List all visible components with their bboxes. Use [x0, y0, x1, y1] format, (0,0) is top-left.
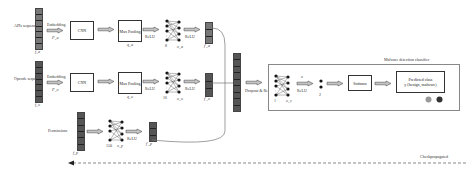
apis-dense-param: o_a [177, 44, 183, 49]
neural-net-icon [274, 74, 290, 97]
opcodes-relu2-label: ReLU [185, 86, 195, 91]
apis-input-vector [35, 8, 43, 50]
softmax-box: Softmax [348, 75, 372, 91]
apis-embedding-label: Embedding [47, 22, 65, 27]
apis-maxpool-box: Max Pooling [118, 20, 142, 42]
output-nodes-icon [319, 79, 323, 91]
opcodes-embedding-label: Embedding [47, 74, 65, 79]
neural-net-icon [165, 19, 181, 42]
permissions-input-label: Permissions [48, 128, 67, 133]
classifier-frame: 1 o_c z ReLU 2 Softmax Predicted class y… [268, 64, 460, 111]
arrow-icon [143, 79, 160, 85]
opcodes-dense-param: o_o [177, 96, 183, 101]
permissions-output-label: f'_p [146, 141, 152, 146]
opcodes-pool-param: q_o [127, 94, 133, 99]
permissions-dense-n: 150 [106, 143, 112, 148]
predicted-class-line2: y (benign, malware) [404, 82, 436, 87]
opcodes-input-vector [35, 61, 43, 103]
arrow-icon [47, 28, 64, 34]
classifier-title: Malware detection classifier [384, 57, 429, 62]
backprop-label: Checkpropagated [420, 154, 448, 159]
arrow-icon [375, 81, 392, 87]
concatenated-vector [233, 53, 241, 112]
apis-relu1-label: ReLU [145, 34, 155, 39]
opcodes-vector-label: f_o [35, 102, 40, 107]
opcodes-embed-param: P_o [52, 87, 58, 92]
apis-pool-param: q_a [127, 42, 133, 47]
arrow-icon [98, 27, 115, 33]
apis-output-label: f'_a [204, 43, 210, 48]
arrow-icon [246, 80, 263, 86]
permissions-output-vector [149, 122, 157, 142]
concat-bracket [212, 25, 247, 150]
apis-embed-param: P_a [52, 35, 58, 40]
backprop-dashed-arrow [68, 160, 468, 166]
neural-net-icon [165, 71, 181, 94]
apis-dense-n: 8 [165, 43, 167, 48]
opcodes-dense-n: 16 [163, 95, 167, 100]
arrow-icon [143, 27, 160, 33]
permissions-input-vector [77, 112, 85, 151]
opcodes-relu1-label: ReLU [145, 86, 155, 91]
z-label: z [301, 74, 303, 79]
arrow-icon [126, 129, 143, 135]
neural-net-icon [108, 119, 124, 142]
android-benign-icon [425, 96, 432, 103]
arrow-icon [184, 79, 201, 85]
apis-vector-label: f_a [35, 49, 40, 54]
opcodes-output-label: f'_o [204, 96, 210, 101]
opcodes-maxpool-box: Max Pooling [118, 72, 142, 94]
arrow-icon [98, 79, 115, 85]
arrow-icon [87, 129, 104, 135]
predicted-class-box: Predicted class y (benign, malware) [396, 71, 445, 93]
android-malware-icon [436, 96, 443, 103]
arrow-icon [47, 80, 64, 86]
opcodes-cnn-box: CNN [70, 73, 94, 92]
classifier-out-n: 2 [319, 92, 321, 97]
permissions-dense-param: o_p [117, 143, 123, 148]
apis-cnn-box: CNN [70, 21, 94, 40]
classifier-relu-label: ReLU [297, 88, 307, 93]
arrow-icon [297, 81, 314, 87]
arrow-icon [184, 27, 201, 33]
permissions-relu-label: ReLU [127, 136, 137, 141]
apis-relu2-label: ReLU [185, 34, 195, 39]
arrow-icon [327, 81, 344, 87]
permissions-vector-label: f_p [73, 150, 78, 155]
classifier-dense-n: 1 [274, 98, 276, 103]
classifier-dense-param: o_c [286, 98, 292, 103]
